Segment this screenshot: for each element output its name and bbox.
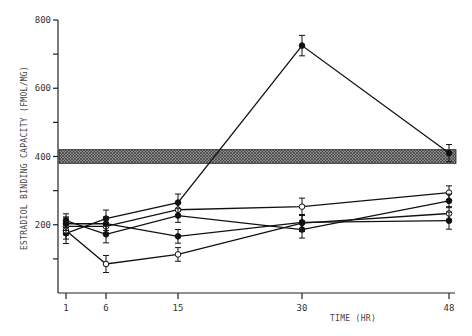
x-tick-label: 48: [444, 303, 455, 313]
series-5-point: [446, 218, 452, 224]
x-tick-label: 30: [297, 303, 308, 313]
x-tick-label: 1: [63, 303, 68, 313]
series-4-point: [103, 232, 109, 238]
series-1-point: [299, 43, 305, 49]
x-tick-label: 6: [103, 303, 108, 313]
x-tick-label: 15: [173, 303, 184, 313]
y-tick-label: 200: [35, 220, 51, 230]
series-4-point: [175, 213, 181, 219]
series-5-point: [299, 220, 305, 226]
series-1-line: [66, 46, 449, 234]
y-tick-label: 800: [35, 15, 51, 25]
series-2-point: [175, 252, 181, 258]
series-4-point: [446, 198, 452, 204]
y-axis-title: ESTRADIOL BINDING CAPACITY (FMOL/MG): [20, 66, 29, 250]
series-2-point: [103, 261, 109, 267]
series-1-point: [446, 150, 452, 156]
y-tick-label: 400: [35, 152, 51, 162]
reference-band: [59, 150, 456, 164]
series-5-point: [63, 221, 69, 227]
y-tick-label: 600: [35, 83, 51, 93]
x-axis-title: TIME (HR): [330, 314, 376, 323]
series-5-point: [175, 234, 181, 240]
series-3-point: [299, 204, 305, 210]
series-5-point: [103, 221, 109, 227]
line-chart: 20040060080016153048 TIME (HR) ESTRADIOL…: [0, 0, 472, 336]
